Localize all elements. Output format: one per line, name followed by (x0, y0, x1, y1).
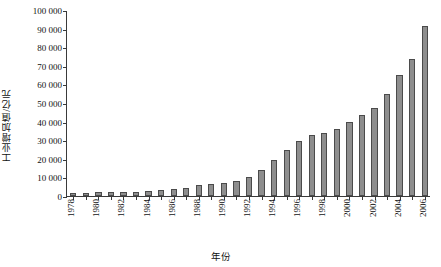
x-axis-tick-label: 1982 (117, 199, 126, 217)
plot-area (66, 11, 430, 197)
x-axis-tick-label: 2000 (343, 199, 352, 217)
x-axis-tick-label: 1988 (193, 199, 202, 217)
x-axis-tick-label: 1986 (168, 199, 177, 217)
y-axis-tick-label: 0 (58, 192, 63, 202)
y-axis-tick-mark (63, 11, 67, 12)
bar (171, 189, 177, 196)
bar (384, 94, 390, 196)
bar (409, 59, 415, 196)
x-axis-tick-label: 1990 (218, 199, 227, 217)
bar (284, 150, 290, 196)
y-axis-tick-mark (63, 48, 67, 49)
x-axis-tick-label: 1992 (243, 199, 252, 217)
chart-figure: 工业增加值/亿元 100 00090 00080 00070 00060 000… (0, 0, 441, 267)
x-axis-tick-label: 1996 (293, 199, 302, 217)
y-axis-tick-mark (63, 160, 67, 161)
y-axis-tick-label: 20 000 (37, 155, 62, 165)
y-axis-tick-mark (63, 123, 67, 124)
y-axis-tick-mark (63, 141, 67, 142)
bar (309, 135, 315, 196)
y-axis-tick-mark (63, 67, 67, 68)
x-axis-tick-labels: 1978198019821984198619881990199219941996… (66, 199, 430, 245)
y-axis-tick-label: 30 000 (37, 136, 62, 146)
x-axis-tick-label: 1998 (318, 199, 327, 217)
y-axis-tick-mark (63, 178, 67, 179)
bar (346, 122, 352, 196)
y-axis-tick-label: 10 000 (37, 173, 62, 183)
y-axis-title-text: 工业增加值/亿元 (3, 89, 13, 162)
y-axis-tick-label: 100 000 (33, 6, 62, 16)
bar (208, 184, 214, 196)
bar-series (67, 11, 430, 196)
x-axis-tick-label: 1994 (268, 199, 277, 217)
x-axis-tick-label: 1980 (92, 199, 101, 217)
bar (321, 133, 327, 196)
y-axis-tick-label: 90 000 (37, 25, 62, 35)
bar (271, 160, 277, 196)
y-axis-tick-label: 60 000 (37, 80, 62, 90)
y-axis-tick-labels: 100 00090 00080 00070 00060 00050 00040 … (14, 0, 66, 267)
bar (258, 170, 264, 196)
y-axis-tick-label: 70 000 (37, 62, 62, 72)
bar (422, 26, 428, 196)
bar (196, 185, 202, 196)
y-axis-tick-label: 40 000 (37, 118, 62, 128)
bar (296, 141, 302, 196)
bar (246, 177, 252, 196)
y-axis-tick-label: 80 000 (37, 43, 62, 53)
bar (334, 129, 340, 196)
bar (183, 188, 189, 196)
y-axis-tick-label: 50 000 (37, 99, 62, 109)
x-axis-tick-label: 2004 (394, 199, 403, 217)
bar (221, 183, 227, 196)
y-axis-tick-mark (63, 104, 67, 105)
bar (359, 115, 365, 196)
x-axis-tick-label: 1978 (67, 199, 76, 217)
y-axis-tick-mark (63, 30, 67, 31)
bar (371, 108, 377, 196)
y-axis-tick-mark (63, 197, 67, 198)
x-axis-tick-label: 1984 (143, 199, 152, 217)
x-axis-tick-label: 2006 (419, 199, 428, 217)
y-axis-tick-mark (63, 85, 67, 86)
bar (233, 181, 239, 196)
x-axis-tick-label: 2002 (369, 199, 378, 217)
bar (396, 75, 402, 196)
x-axis-title: 年份 (0, 249, 441, 263)
